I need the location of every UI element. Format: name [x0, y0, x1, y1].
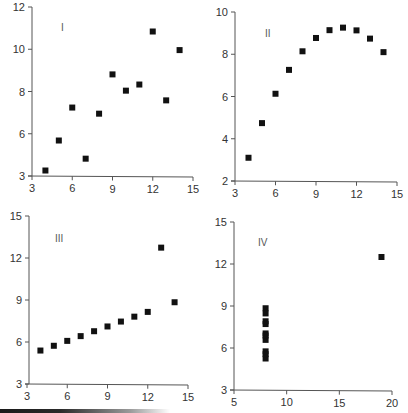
x-tick-label: 9	[104, 390, 110, 402]
data-point-marker	[123, 88, 129, 94]
y-tick-label: 4	[222, 133, 228, 145]
data-point-marker	[37, 348, 43, 354]
y-tick-label: 6	[222, 91, 228, 103]
y-tick-label: 9	[16, 294, 22, 306]
data-point-marker	[158, 245, 164, 251]
data-point-marker	[378, 254, 384, 260]
data-point-marker	[96, 111, 102, 117]
data-point-marker	[263, 318, 269, 324]
y-tick-label: 15	[10, 210, 22, 222]
data-point-marker	[246, 155, 252, 161]
y-tick-label: 6	[221, 342, 227, 354]
data-point-marker	[110, 71, 116, 77]
x-tick-label: 6	[272, 187, 278, 199]
data-point-marker	[150, 29, 156, 35]
y-tick-label: 15	[215, 216, 227, 228]
data-point-marker	[273, 91, 279, 97]
y-tick-label: 9	[221, 300, 227, 312]
data-point-marker	[263, 305, 269, 311]
x-tick-label: 15	[182, 391, 194, 403]
data-point-marker	[105, 323, 111, 329]
data-point-marker	[118, 319, 124, 325]
x-axis-line	[25, 384, 188, 385]
x-tick-label: 6	[69, 182, 75, 194]
x-axis-line	[28, 176, 193, 177]
y-tick-label: 8	[222, 48, 228, 60]
y-tick-label: 8	[19, 86, 25, 98]
data-point-marker	[340, 25, 346, 31]
data-point-marker	[56, 138, 62, 144]
data-point-marker	[91, 328, 97, 334]
data-point-marker	[259, 120, 265, 126]
y-tick-label: 3	[221, 384, 227, 396]
panel-label: III	[55, 233, 63, 244]
panel-label: IV	[258, 237, 268, 248]
y-tick-label: 6	[19, 128, 25, 140]
panel-label: II	[265, 28, 271, 39]
figure-canvas: 36810123691215I 2468103691215II 36912153…	[0, 0, 408, 413]
data-point-marker	[263, 351, 269, 357]
x-tick-label: 15	[391, 188, 403, 200]
x-tick-label: 15	[333, 397, 345, 409]
data-point-marker	[163, 97, 169, 103]
data-point-marker	[131, 314, 137, 320]
data-point-marker	[136, 82, 142, 88]
y-tick-label: 12	[13, 1, 25, 13]
x-tick-label: 12	[142, 391, 154, 403]
x-tick-label: 9	[109, 183, 115, 195]
x-tick-label: 6	[64, 390, 70, 402]
scatter-panel-iv: 36912155101520IV	[215, 216, 398, 409]
x-tick-label: 12	[350, 188, 362, 200]
data-point-marker	[145, 309, 151, 315]
scatter-panel-i: 36810123691215I	[13, 1, 199, 195]
x-tick-label: 15	[187, 183, 199, 195]
anscombe-quartet-figure: 36810123691215I 2468103691215II 36912153…	[0, 0, 408, 413]
y-tick-label: 3	[19, 170, 25, 182]
panel-label: I	[61, 22, 64, 33]
data-point-marker	[64, 338, 70, 344]
x-tick-label: 3	[24, 390, 30, 402]
scan-edge-shadow	[0, 409, 408, 413]
x-axis-line	[230, 390, 392, 391]
x-tick-label: 3	[29, 182, 35, 194]
y-tick-label: 12	[10, 252, 22, 264]
y-tick-label: 12	[215, 258, 227, 270]
data-point-marker	[78, 333, 84, 339]
data-point-marker	[300, 48, 306, 54]
y-tick-label: 3	[16, 378, 22, 390]
x-tick-label: 20	[386, 397, 398, 409]
data-point-marker	[83, 156, 89, 162]
data-point-marker	[313, 35, 319, 41]
y-tick-label: 2	[222, 175, 228, 187]
x-tick-label: 3	[232, 187, 238, 199]
data-point-marker	[327, 27, 333, 33]
scatter-panel-iii: 36912153691215III	[10, 210, 194, 403]
data-point-marker	[69, 105, 75, 111]
x-tick-label: 9	[313, 188, 319, 200]
data-point-marker	[172, 299, 178, 305]
data-point-marker	[381, 49, 387, 55]
data-point-marker	[51, 343, 57, 349]
data-point-marker	[177, 47, 183, 53]
scatter-panel-ii: 2468103691215II	[216, 6, 403, 200]
data-point-marker	[354, 27, 360, 33]
data-point-marker	[263, 310, 269, 316]
data-point-marker	[367, 36, 373, 42]
x-tick-label: 5	[231, 396, 237, 408]
x-tick-label: 10	[281, 396, 293, 408]
data-point-marker	[263, 333, 269, 339]
data-point-marker	[42, 168, 48, 174]
y-tick-label: 6	[16, 336, 22, 348]
data-point-marker	[286, 67, 292, 73]
y-tick-label: 10	[13, 43, 25, 55]
x-tick-label: 12	[147, 183, 159, 195]
x-axis-line	[231, 181, 397, 182]
y-tick-label: 10	[216, 6, 228, 18]
